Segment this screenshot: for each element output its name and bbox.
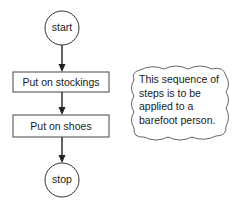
arrowhead-icon: [59, 155, 66, 163]
step2-node-label: Put on shoes: [13, 120, 109, 132]
arrowhead-icon: [59, 107, 66, 115]
start-node-label: start: [45, 21, 79, 33]
annotation-line: barefoot person.: [139, 114, 219, 128]
annotation-line: This sequence of: [139, 73, 219, 87]
annotation-text: This sequence of steps is to be applied …: [139, 73, 219, 127]
step1-node-label: Put on stockings: [13, 76, 109, 88]
annotation-line: steps is to be: [139, 87, 219, 101]
arrowhead-icon: [59, 64, 66, 72]
stop-node-label: stop: [45, 173, 79, 185]
annotation-line: applied to a: [139, 100, 219, 114]
